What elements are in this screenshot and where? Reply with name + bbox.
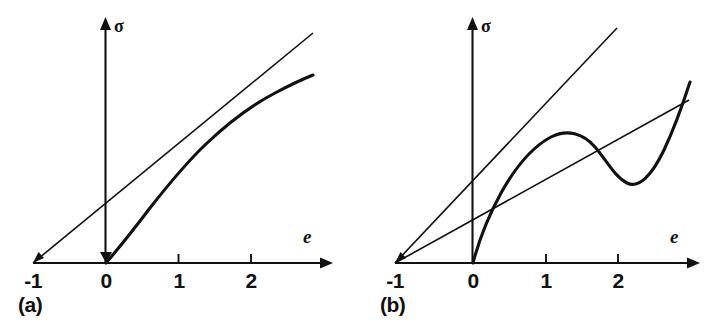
stress-strain-curve-b: [473, 82, 690, 263]
x-tick-label-b-0: -1: [386, 269, 404, 292]
chart-panel-b: -1 0 1 2 e σ (b): [359, 0, 718, 331]
panel-caption-a: (a): [18, 293, 42, 316]
steep-tangent-line-b: [395, 28, 617, 263]
chart-svg-a: -1 0 1 2 e σ (a): [0, 0, 359, 331]
x-axis-arrowhead-a: [320, 258, 333, 269]
shallow-tangent-line-b: [395, 100, 689, 263]
x-tick-label-b-1: 0: [467, 269, 478, 292]
y-axis-arrowhead-a: [100, 17, 111, 30]
x-tick-label-b-3: 2: [612, 269, 623, 292]
stress-strain-curve-a: [106, 75, 313, 263]
y-axis-label-a: σ: [114, 16, 124, 36]
figure-container: -1 0 1 2 e σ (a): [0, 0, 718, 331]
x-axis-label-a: e: [303, 226, 312, 247]
chart-panel-a: -1 0 1 2 e σ (a): [0, 0, 359, 331]
chart-svg-b: -1 0 1 2 e σ (b): [359, 0, 718, 331]
y-axis-label-b: σ: [481, 16, 491, 36]
x-axis-label-b: e: [670, 226, 679, 247]
x-tick-label-a-0: -1: [24, 269, 42, 292]
x-axis-arrowhead-b: [687, 258, 700, 269]
x-tick-label-b-2: 1: [540, 269, 552, 292]
x-tick-label-a-2: 1: [173, 269, 185, 292]
panel-caption-b: (b): [380, 293, 405, 316]
tangent-line-a: [33, 33, 313, 263]
x-tick-label-a-3: 2: [245, 269, 256, 292]
x-tick-label-a-1: 0: [100, 269, 111, 292]
y-axis-arrowhead-b: [467, 17, 478, 30]
